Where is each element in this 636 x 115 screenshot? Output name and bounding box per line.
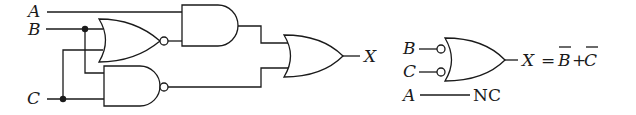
nor-gate bbox=[99, 19, 160, 62]
bubble-b bbox=[437, 45, 445, 53]
nand-gate bbox=[104, 66, 160, 106]
right-input-label-c: C bbox=[403, 61, 416, 81]
equation-equals: = bbox=[541, 50, 555, 70]
wire-c-branch bbox=[63, 50, 103, 99]
nor-bubble bbox=[160, 37, 168, 45]
equation-b: B bbox=[557, 50, 571, 70]
equation-c: C bbox=[584, 50, 597, 70]
input-label-a: A bbox=[26, 1, 40, 21]
right-input-label-b: B bbox=[402, 38, 416, 58]
bubble-c bbox=[437, 68, 445, 76]
or-gate-inverted-inputs bbox=[445, 38, 505, 81]
input-label-c: C bbox=[27, 88, 40, 108]
logic-circuit-diagram: A B C X B C A X = B + C NC bbox=[0, 0, 636, 115]
nand-bubble bbox=[160, 83, 168, 91]
input-label-b: B bbox=[27, 19, 41, 39]
wire-and-out bbox=[238, 26, 288, 43]
junction-b bbox=[82, 26, 88, 32]
wire-b-branch bbox=[85, 29, 105, 73]
or-gate bbox=[284, 35, 343, 77]
equation-x: X bbox=[520, 50, 535, 70]
junction-c bbox=[60, 96, 66, 102]
wire-nand-out bbox=[168, 68, 288, 87]
right-input-label-a: A bbox=[401, 85, 415, 105]
nc-label: NC bbox=[473, 85, 501, 105]
output-label-x: X bbox=[362, 46, 377, 66]
and-gate bbox=[182, 5, 238, 46]
